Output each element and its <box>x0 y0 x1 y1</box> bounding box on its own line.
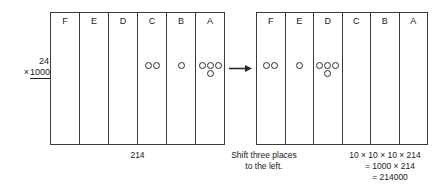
column-a-after[interactable]: A <box>400 13 428 144</box>
counter-circle-icon <box>324 70 331 77</box>
counter-row <box>207 69 214 77</box>
counters-column-b-before <box>167 61 195 69</box>
column-label-b: B <box>371 16 399 27</box>
counter-row <box>178 61 185 69</box>
column-label-e: E <box>80 16 108 27</box>
column-label-a: A <box>400 16 428 27</box>
column-label-b: B <box>167 16 195 27</box>
counter-row <box>145 61 160 69</box>
result-line-1: 10 × 10 × 10 × 214 <box>330 150 440 161</box>
counter-row <box>296 61 303 69</box>
column-e-before[interactable]: E <box>80 13 109 144</box>
column-label-d: D <box>314 16 342 27</box>
shift-line-1: Shift three places <box>231 150 297 160</box>
column-b-before[interactable]: B <box>167 13 196 144</box>
column-f-after[interactable]: F <box>257 13 286 144</box>
counters-column-e-after <box>286 61 314 69</box>
multiplier-top-value: 24 <box>6 56 50 67</box>
caption-shift-instruction: Shift three places to the left. <box>214 150 314 172</box>
column-label-c: C <box>343 16 371 27</box>
result-line-2: = 1000 × 214 <box>330 161 440 172</box>
multiplier-operand: 1000 <box>30 67 50 79</box>
counter-circle-icon <box>316 62 323 69</box>
counter-circle-icon <box>199 62 206 69</box>
multiplier-bottom-row: ×1000 <box>6 67 50 78</box>
column-d-after[interactable]: D <box>314 13 343 144</box>
column-c-after[interactable]: C <box>343 13 372 144</box>
column-d-before[interactable]: D <box>109 13 138 144</box>
counter-row <box>324 69 331 77</box>
place-value-table-after: F E D C B A <box>256 12 428 145</box>
counter-circle-icon <box>207 70 214 77</box>
counters-column-d-after <box>314 61 342 77</box>
shift-line-2: to the left. <box>245 161 282 171</box>
column-f-before[interactable]: F <box>51 13 80 144</box>
column-label-f: F <box>51 16 79 27</box>
counters-column-f-after <box>257 61 285 69</box>
counter-circle-icon <box>145 62 152 69</box>
column-e-after[interactable]: E <box>286 13 315 144</box>
column-label-d: D <box>109 16 137 27</box>
counter-circle-icon <box>153 62 160 69</box>
counter-circle-icon <box>332 62 339 69</box>
counters-column-c-before <box>138 61 166 69</box>
column-a-before[interactable]: A <box>196 13 224 144</box>
result-line-3: = 214000 <box>330 172 440 183</box>
caption-result-calculation: 10 × 10 × 10 × 214 = 1000 × 214 = 214000 <box>330 150 440 183</box>
column-label-e: E <box>286 16 314 27</box>
column-label-c: C <box>138 16 166 27</box>
place-value-table-before: F E D C B A <box>50 12 225 145</box>
column-label-f: F <box>257 16 285 27</box>
column-label-a: A <box>196 16 224 27</box>
counter-circle-icon <box>271 62 278 69</box>
counter-circle-icon <box>296 62 303 69</box>
counter-circle-icon <box>263 62 270 69</box>
counter-circle-icon <box>215 62 222 69</box>
counter-circle-icon <box>324 62 331 69</box>
counter-row <box>199 61 222 69</box>
counters-column-a-before <box>196 61 224 77</box>
multiplication-sign: × <box>24 67 29 77</box>
counter-circle-icon <box>207 62 214 69</box>
counter-circle-icon <box>178 62 185 69</box>
counter-row <box>263 61 278 69</box>
column-b-after[interactable]: B <box>371 13 400 144</box>
caption-before-value: 214 <box>50 150 225 161</box>
arrow-right-icon <box>229 64 252 73</box>
column-c-before[interactable]: C <box>138 13 167 144</box>
counter-row <box>316 61 339 69</box>
multiplier-label: 24 ×1000 <box>6 56 50 78</box>
